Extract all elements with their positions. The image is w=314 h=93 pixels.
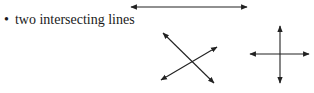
oblique-intersecting-lines	[161, 33, 217, 83]
line-figures	[0, 0, 314, 93]
perpendicular-intersecting-lines	[250, 26, 309, 83]
